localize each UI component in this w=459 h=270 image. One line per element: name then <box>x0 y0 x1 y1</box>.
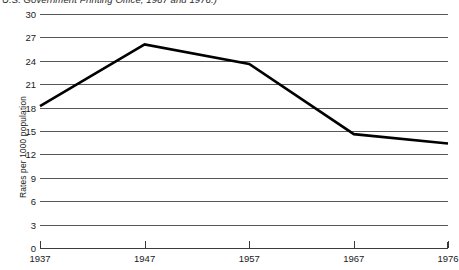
y-axis-tick-label: 24 <box>4 55 36 66</box>
y-axis-tick-label: 0 <box>4 243 36 254</box>
x-axis-tick <box>40 241 41 248</box>
x-axis-tick-label: 1976 <box>437 253 458 264</box>
y-axis-tick-label: 27 <box>4 32 36 43</box>
y-axis-tick-labels: 036912151821242730 <box>0 14 36 248</box>
x-axis-tick-label: 1947 <box>134 253 155 264</box>
y-axis-tick-label: 9 <box>4 172 36 183</box>
y-axis-tick-label: 15 <box>4 126 36 137</box>
source-caption: U.S. Government Printing Office, 1967 an… <box>2 0 442 6</box>
y-axis-tick-label: 6 <box>4 196 36 207</box>
y-axis-tick-label: 30 <box>4 9 36 20</box>
y-axis-tick-label: 3 <box>4 219 36 230</box>
x-axis-tick <box>354 241 355 248</box>
x-axis-tick-label: 1957 <box>239 253 260 264</box>
data-series-line <box>40 14 448 248</box>
x-axis-tick-label: 1967 <box>343 253 364 264</box>
y-axis-tick-label: 21 <box>4 79 36 90</box>
x-axis-tick-label: 1937 <box>29 253 50 264</box>
y-axis-tick-label: 18 <box>4 102 36 113</box>
series-polyline <box>40 44 448 143</box>
x-axis-tick <box>145 241 146 248</box>
x-axis-tick <box>448 241 449 248</box>
y-axis-tick-label: 12 <box>4 149 36 160</box>
x-axis-tick <box>249 241 250 248</box>
plot-area <box>40 14 448 248</box>
x-axis-line <box>40 248 448 249</box>
